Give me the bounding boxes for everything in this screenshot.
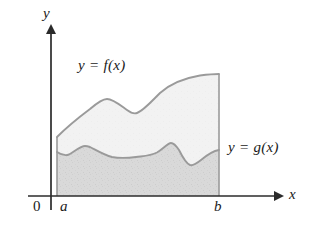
x-axis-label: x bbox=[289, 187, 296, 202]
y-axis-label: y bbox=[43, 6, 50, 21]
upper-bound-label-b: b bbox=[214, 199, 222, 214]
origin-label: 0 bbox=[33, 199, 41, 214]
area-between-curves-figure: y x 0 a b y = f(x) y = g(x) bbox=[0, 0, 321, 234]
curve-label-g-of-x: y = g(x) bbox=[228, 140, 279, 155]
figure-canvas bbox=[0, 0, 321, 234]
lower-bound-label-a: a bbox=[60, 199, 68, 214]
curve-label-f-of-x: y = f(x) bbox=[78, 58, 126, 73]
